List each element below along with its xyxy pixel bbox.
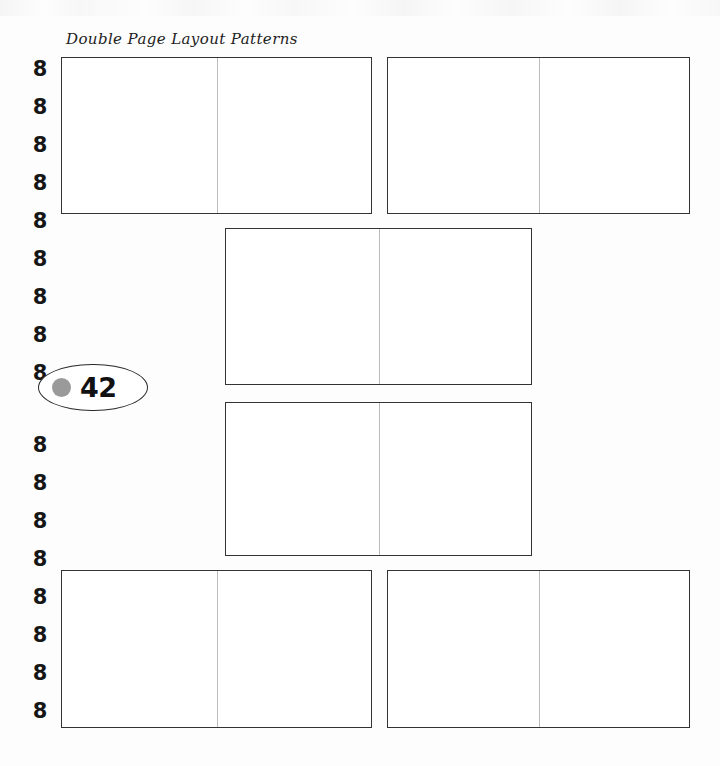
- spread-gutter-line: [217, 58, 218, 213]
- spread-right-page[interactable]: [539, 58, 690, 213]
- spread-3[interactable]: [225, 228, 532, 385]
- spread-gutter-line: [379, 403, 380, 555]
- spread-6[interactable]: [387, 570, 690, 728]
- notebook-page: Double Page Layout Patterns 888888888888…: [0, 0, 720, 766]
- spiral-ring: 8: [30, 208, 50, 234]
- spiral-ring: 8: [30, 432, 50, 458]
- spiral-ring: 8: [30, 170, 50, 196]
- spread-left-page[interactable]: [226, 229, 379, 384]
- spread-gutter-line: [379, 229, 380, 384]
- spread-left-page[interactable]: [226, 403, 379, 555]
- spread-2[interactable]: [387, 57, 690, 214]
- scan-noise-band: [0, 0, 720, 16]
- spiral-ring: 8: [30, 546, 50, 572]
- spread-gutter-line: [539, 58, 540, 213]
- spread-right-page[interactable]: [539, 571, 690, 727]
- spiral-ring: 8: [30, 284, 50, 310]
- page-number: 42: [80, 374, 117, 401]
- spiral-ring: 8: [30, 94, 50, 120]
- spread-1[interactable]: [61, 57, 372, 214]
- spiral-ring: 8: [30, 660, 50, 686]
- spiral-ring: 8: [30, 132, 50, 158]
- spread-right-page[interactable]: [217, 58, 372, 213]
- badge-dot-icon: [52, 378, 71, 397]
- spiral-ring: 8: [30, 622, 50, 648]
- spiral-ring: 8: [30, 698, 50, 724]
- spread-5[interactable]: [61, 570, 372, 728]
- spread-left-page[interactable]: [388, 58, 539, 213]
- spread-gutter-line: [539, 571, 540, 727]
- page-title: Double Page Layout Patterns: [66, 30, 298, 48]
- spread-right-page[interactable]: [379, 229, 532, 384]
- spiral-ring: 8: [30, 470, 50, 496]
- page-number-badge: 42: [38, 364, 148, 411]
- spread-gutter-line: [217, 571, 218, 727]
- spiral-ring: 8: [30, 56, 50, 82]
- spread-right-page[interactable]: [379, 403, 532, 555]
- spiral-ring: 8: [30, 584, 50, 610]
- spread-right-page[interactable]: [217, 571, 372, 727]
- spread-left-page[interactable]: [62, 571, 217, 727]
- spread-left-page[interactable]: [388, 571, 539, 727]
- spread-left-page[interactable]: [62, 58, 217, 213]
- spiral-ring: 8: [30, 508, 50, 534]
- spread-4[interactable]: [225, 402, 532, 556]
- spiral-ring: 8: [30, 322, 50, 348]
- spiral-ring: 8: [30, 246, 50, 272]
